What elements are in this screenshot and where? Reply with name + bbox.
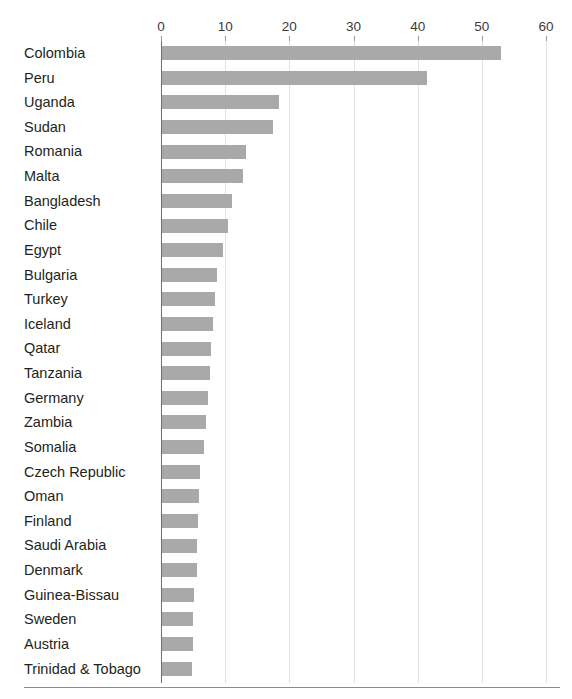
bar (162, 95, 279, 109)
category-label: Oman (24, 484, 160, 509)
bar-rows: ColombiaPeruUgandaSudanRomaniaMaltaBangl… (0, 41, 572, 683)
bar-row: Finland (0, 509, 572, 534)
bar (162, 292, 215, 306)
category-label: Guinea-Bissau (24, 583, 160, 608)
category-label: Saudi Arabia (24, 533, 160, 558)
bar-row: Turkey (0, 287, 572, 312)
bar (162, 489, 199, 503)
x-tick-label-30: 30 (346, 19, 361, 35)
x-tick-mark-20 (289, 36, 290, 41)
category-label: Bulgaria (24, 263, 160, 288)
bar-row: Colombia (0, 41, 572, 66)
x-tick-mark-60 (546, 36, 547, 41)
bar-row: Germany (0, 386, 572, 411)
category-label: Iceland (24, 312, 160, 337)
bar-row: Saudi Arabia (0, 533, 572, 558)
x-tick-label-60: 60 (538, 19, 553, 35)
bar-row: Peru (0, 66, 572, 91)
bar (162, 120, 273, 134)
category-label: Austria (24, 632, 160, 657)
bar-row: Denmark (0, 558, 572, 583)
x-tick-label-50: 50 (474, 19, 489, 35)
category-label: Trinidad & Tobago (24, 657, 160, 682)
bar-row: Sudan (0, 115, 572, 140)
x-tick-mark-0 (161, 36, 162, 41)
bar-row: Trinidad & Tobago (0, 657, 572, 682)
bar-row: Uganda (0, 90, 572, 115)
category-label: Sudan (24, 115, 160, 140)
category-label: Egypt (24, 238, 160, 263)
bar (162, 219, 228, 233)
x-tick-mark-30 (354, 36, 355, 41)
x-tick-label-40: 40 (410, 19, 425, 35)
x-tick-mark-40 (418, 36, 419, 41)
bar (162, 268, 217, 282)
category-label: Zambia (24, 410, 160, 435)
bar (162, 145, 246, 159)
chart-title (24, 0, 454, 3)
bar-row: Zambia (0, 410, 572, 435)
bar-row: Malta (0, 164, 572, 189)
bar (162, 637, 193, 651)
bar-row: Romania (0, 139, 572, 164)
bar-row: Tanzania (0, 361, 572, 386)
bar (162, 243, 223, 257)
bar-row: Somalia (0, 435, 572, 460)
bar-row: Chile (0, 213, 572, 238)
category-label: Tanzania (24, 361, 160, 386)
category-label: Sweden (24, 607, 160, 632)
bar-row: Guinea-Bissau (0, 583, 572, 608)
category-label: Germany (24, 386, 160, 411)
category-label: Denmark (24, 558, 160, 583)
category-label: Somalia (24, 435, 160, 460)
bar-chart-figure: 0102030405060 ColombiaPeruUgandaSudanRom… (0, 0, 572, 699)
bar-row: Egypt (0, 238, 572, 263)
category-label: Turkey (24, 287, 160, 312)
bar (162, 169, 243, 183)
category-label: Czech Republic (24, 460, 160, 485)
category-label: Malta (24, 164, 160, 189)
category-label: Colombia (24, 41, 160, 66)
bar (162, 588, 194, 602)
bar (162, 662, 192, 676)
category-label: Finland (24, 509, 160, 534)
bar-row: Austria (0, 632, 572, 657)
bar (162, 317, 213, 331)
bar (162, 415, 206, 429)
bar-row: Iceland (0, 312, 572, 337)
bar (162, 46, 501, 60)
bar (162, 465, 200, 479)
category-label: Bangladesh (24, 189, 160, 214)
category-label: Uganda (24, 90, 160, 115)
bar-row: Bangladesh (0, 189, 572, 214)
bar (162, 563, 197, 577)
bar (162, 612, 193, 626)
bar (162, 440, 204, 454)
bar-row: Bulgaria (0, 263, 572, 288)
x-tick-mark-10 (225, 36, 226, 41)
x-tick-label-0: 0 (157, 19, 165, 35)
bar-row: Qatar (0, 336, 572, 361)
bar (162, 342, 211, 356)
bar-row: Sweden (0, 607, 572, 632)
category-label: Romania (24, 139, 160, 164)
bar-row: Oman (0, 484, 572, 509)
category-label: Chile (24, 213, 160, 238)
bar (162, 71, 427, 85)
x-axis-tick-labels: 0102030405060 (0, 19, 572, 35)
bar (162, 539, 197, 553)
bar (162, 391, 208, 405)
x-tick-mark-50 (482, 36, 483, 41)
bar (162, 514, 198, 528)
x-tick-label-20: 20 (282, 19, 297, 35)
bar-row: Czech Republic (0, 460, 572, 485)
category-label: Qatar (24, 336, 160, 361)
x-tick-label-10: 10 (218, 19, 233, 35)
category-label: Peru (24, 66, 160, 91)
bar (162, 194, 232, 208)
bar (162, 366, 210, 380)
bottom-rule (24, 687, 560, 688)
